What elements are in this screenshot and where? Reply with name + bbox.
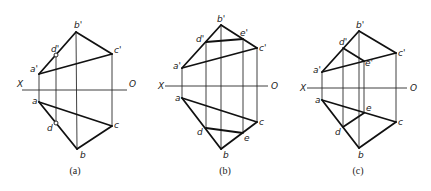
caption-a: (a) [69,165,80,177]
point-label-e: e [244,133,250,143]
point-label-a-prime: a' [173,61,181,71]
point-label-b-prime: b' [356,20,364,30]
point-labels: a'b'c'd'abcda'b'c'd'e'abcdea'b'c'd'e'abc… [30,14,405,160]
point-label-e-prime: e' [365,58,373,68]
point-label-e-prime: e' [240,28,248,38]
point-label-a-prime: a' [30,64,38,74]
point-label-b: b [223,150,229,160]
axis-label-x: X [16,79,24,89]
point-label-c: c [114,120,119,130]
axis-label-o: O [410,83,417,93]
caption-b: (b) [219,165,231,177]
axis-label-x: X [299,83,307,93]
point-label-c-prime: c' [398,48,405,58]
figure-captions: (a) (b) (c) [69,165,363,177]
point-label-b-prime: b' [217,14,225,24]
figure-c [307,31,407,148]
axis-label-o: O [271,81,278,91]
point-label-c-prime: c' [259,43,266,53]
point-label-d: d [47,123,53,133]
point-label-e: e [366,103,372,113]
triangle-front-view [39,32,112,74]
axis-label-o: O [129,79,136,89]
point-label-b: b [80,150,86,160]
point-label-a-prime: a' [313,65,321,75]
point-label-c: c [398,117,403,127]
point-label-d-prime: d' [339,37,347,47]
caption-c: (c) [352,165,363,177]
point-label-a: a [32,96,38,106]
point-label-a: a [315,95,321,105]
point-label-b: b [358,150,364,160]
point-label-d: d [335,127,341,137]
point-label-d-prime: d' [196,34,204,44]
axis-label-x: X [157,81,165,91]
point-label-b-prime: b' [74,20,82,30]
orthographic-projection-diagram: a'b'c'd'abcda'b'c'd'e'abcdea'b'c'd'e'abc… [0,0,431,191]
figure-b [165,25,268,149]
point-label-d-prime: d' [51,44,59,54]
point-d-marker [54,121,58,125]
point-label-c: c [259,117,264,127]
point-label-d: d [197,127,203,137]
point-label-c-prime: c' [114,45,121,55]
point-label-a: a [175,93,181,103]
figure-a [22,32,127,149]
